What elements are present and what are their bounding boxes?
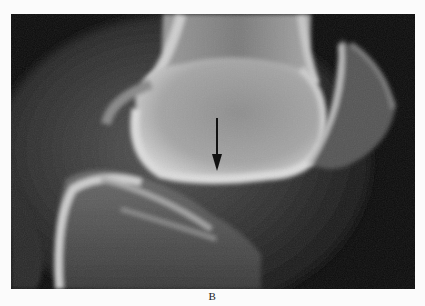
radiograph-figure	[11, 14, 415, 289]
figure-label: B	[0, 290, 425, 302]
knee-xray-image	[11, 14, 415, 289]
